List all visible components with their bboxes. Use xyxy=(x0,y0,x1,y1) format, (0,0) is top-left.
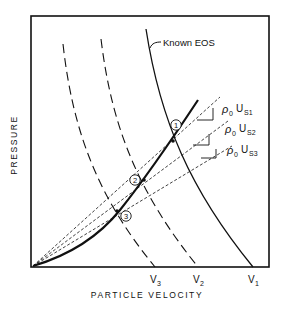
svg-text:ρ: ρ xyxy=(221,103,228,115)
svg-text:V: V xyxy=(193,274,200,285)
svg-text:3: 3 xyxy=(157,280,161,287)
tick-label-v2: V 2 xyxy=(193,274,204,287)
point-marker-2: 2 xyxy=(130,175,140,185)
diagram-svg: Known EOS 1 2 3 ρ 0 U S1 ρ 0 U S2 ρ xyxy=(0,0,281,311)
point-marker-1: 1 xyxy=(171,120,181,130)
slope-triangle-1 xyxy=(197,108,213,120)
svg-text:U: U xyxy=(236,103,243,114)
svg-text:0: 0 xyxy=(234,151,238,158)
known-eos-curve xyxy=(146,29,253,267)
svg-text:S1: S1 xyxy=(244,109,253,116)
svg-text:ρ: ρ xyxy=(226,144,233,156)
known-eos-label: Known EOS xyxy=(163,37,215,48)
intersection-point-3 xyxy=(115,209,119,213)
svg-text:1: 1 xyxy=(174,121,178,130)
y-axis-label: PRESSURE xyxy=(9,115,19,175)
svg-text:V: V xyxy=(150,274,157,285)
v2-dashed-curve xyxy=(101,39,198,267)
rayleigh-label-2: ρ 0 U S2 xyxy=(224,123,256,137)
rayleigh-line-2 xyxy=(33,121,228,266)
rayleigh-line-1 xyxy=(33,97,220,266)
tick-label-v1: V 1 xyxy=(248,274,259,287)
point-marker-3: 3 xyxy=(121,211,131,221)
tick-label-v3: V 3 xyxy=(150,274,161,287)
intersection-point-2 xyxy=(142,178,146,182)
x-axis-label: PARTICLE VELOCITY xyxy=(91,290,203,300)
intersection-point-1 xyxy=(171,139,175,143)
known-eos-leader xyxy=(150,42,161,48)
svg-text:3: 3 xyxy=(124,212,128,221)
svg-text:ρ: ρ xyxy=(224,123,231,135)
svg-text:V: V xyxy=(248,274,255,285)
svg-text:U: U xyxy=(241,144,248,155)
v3-dashed-curve xyxy=(63,44,155,267)
rayleigh-label-1: ρ 0 U S1 xyxy=(221,103,253,117)
svg-text:0: 0 xyxy=(232,130,236,137)
svg-text:1: 1 xyxy=(255,280,259,287)
rayleigh-label-3: ρ 0 U S3 xyxy=(226,144,258,158)
svg-text:U: U xyxy=(239,123,246,134)
rayleigh-line-3 xyxy=(33,146,232,266)
slope-triangle-2 xyxy=(193,134,209,145)
svg-text:S3: S3 xyxy=(249,150,258,157)
svg-text:0: 0 xyxy=(229,110,233,117)
diagram-canvas: Known EOS 1 2 3 ρ 0 U S1 ρ 0 U S2 ρ xyxy=(0,0,281,311)
svg-text:2: 2 xyxy=(133,176,137,185)
svg-text:S2: S2 xyxy=(247,129,256,136)
svg-text:2: 2 xyxy=(200,280,204,287)
